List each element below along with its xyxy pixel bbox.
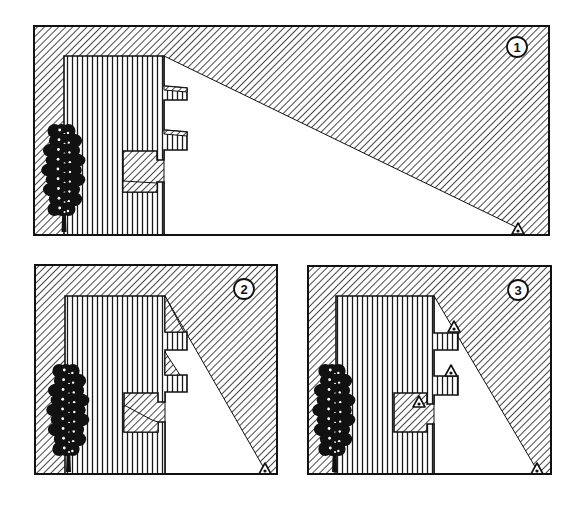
diagram-panel-2: 2 xyxy=(35,265,277,474)
panel-number-badge: 1 xyxy=(507,37,527,57)
balcony-shadow xyxy=(123,181,157,192)
panel-number: 2 xyxy=(240,282,247,297)
panel-number: 1 xyxy=(513,40,520,55)
panel-number: 3 xyxy=(514,283,521,298)
diagram-panel-3: 3 xyxy=(308,266,551,474)
diagram-canvas: 123 xyxy=(0,0,581,506)
panel-number-badge: 2 xyxy=(234,279,254,299)
diagram-panel-1: 1 xyxy=(34,26,549,235)
panel-number-badge: 3 xyxy=(508,280,528,300)
